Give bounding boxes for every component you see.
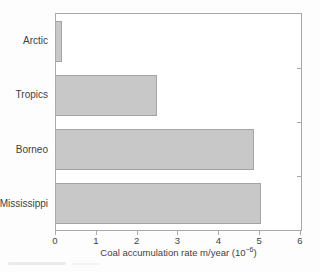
x-tick-label-4: 4 [216, 235, 221, 246]
x-axis-label-prefix: Coal accumulation rate m/year (10 [100, 247, 245, 258]
bar-row-mississippi [56, 176, 301, 230]
y-axis-labels: ArcticTropicsBorneoMississippi [0, 13, 51, 231]
bar-borneo [56, 129, 254, 170]
plot-area [55, 13, 302, 231]
plot-bars [56, 14, 301, 230]
bar-row-arctic [56, 14, 301, 68]
x-tick-label-2: 2 [134, 235, 139, 246]
x-tick-label-5: 5 [256, 235, 261, 246]
x-tick-label-1: 1 [93, 235, 98, 246]
x-axis-label-suffix: ) [254, 247, 257, 258]
x-tick-label-0: 0 [52, 235, 57, 246]
bar-row-borneo [56, 122, 301, 176]
right-boundary-tick [297, 68, 301, 69]
bar-chart-figure: ArcticTropicsBorneoMississippi 0123456 C… [0, 0, 320, 272]
x-axis-ticks: 0123456 [55, 231, 302, 247]
category-label-arctic: Arctic [0, 13, 51, 68]
x-tick-label-6: 6 [297, 235, 302, 246]
right-boundary-tick [297, 176, 301, 177]
category-label-borneo: Borneo [0, 122, 51, 177]
bar-arctic [56, 21, 62, 62]
right-boundary-tick [297, 122, 301, 123]
bar-row-tropics [56, 68, 301, 122]
bar-mississippi [56, 183, 261, 224]
x-axis-label-superscript: −6 [246, 246, 254, 253]
bar-tropics [56, 75, 157, 116]
category-label-mississippi: Mississippi [0, 177, 51, 232]
category-label-tropics: Tropics [0, 68, 51, 123]
x-tick-label-3: 3 [175, 235, 180, 246]
cropped-caption-artifact [72, 263, 100, 265]
x-axis-label: Coal accumulation rate m/year (10−6) [55, 247, 302, 258]
cropped-caption-artifact [8, 262, 66, 265]
